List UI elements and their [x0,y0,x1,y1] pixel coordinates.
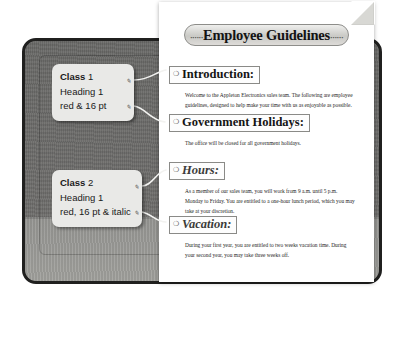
callout-class-2[interactable]: Class 2 Heading 1 red, 16 pt & italic [52,170,142,227]
callout-line-3: red, 16 pt & italic [60,205,134,220]
document-title: Employee Guidelines [203,27,330,44]
document-title-banner: ······ Employee Guidelines ······ [184,24,349,46]
title-ornament-left-icon: ······ [190,33,203,42]
callout-title-rest: 1 [85,71,93,82]
section-hours: ❍ Hours: As a member of our sales team, … [169,160,365,216]
callout-title-bold: Class [60,71,85,82]
section-marker-icon: ❍ [173,70,179,77]
document-page[interactable]: ······ Employee Guidelines ······ ❍ Intr… [159,2,374,282]
section-body-text: During your first year, you are entitled… [185,240,355,260]
callout-line-3: red & 16 pt [60,99,126,114]
section-heading-text: Hours: [182,164,219,177]
section-heading-text: Vacation: [182,218,231,231]
section-marker-icon: ❍ [173,166,179,173]
anchor-glyph-icon: ✎ [126,103,131,110]
section-marker-icon: ❍ [173,220,179,227]
callout-title-line: Class 1 [60,70,126,85]
section-body-text: Welcome to the Appleton Electronics sale… [185,90,355,110]
section-introduction: ❍ Introduction: Welcome to the Appleton … [169,64,365,110]
section-heading-box[interactable]: ❍ Introduction: [169,66,260,84]
section-heading-box[interactable]: ❍ Vacation: [169,216,237,234]
callout-title-rest: 2 [85,177,93,188]
section-body-text: The office will be closed for all govern… [185,138,355,148]
section-government-holidays: ❍ Government Holidays: The office will b… [169,112,365,148]
callout-line-2: Heading 1 [60,191,134,206]
callout-title-line: Class 2 [60,176,134,191]
section-heading-box[interactable]: ❍ Hours: [169,162,225,180]
callout-class-1[interactable]: Class 1 Heading 1 red & 16 pt [52,64,134,121]
screenshot-scene: ······ Employee Guidelines ······ ❍ Intr… [0,0,414,339]
section-marker-icon: ❍ [173,118,179,125]
section-heading-text: Government Holidays: [182,116,304,129]
anchor-glyph-icon: ✎ [134,209,139,216]
anchor-glyph-icon: ✎ [134,183,139,190]
callout-title-bold: Class [60,177,85,188]
callout-line-2: Heading 1 [60,85,126,100]
section-body-text: As a member of our sales team, you will … [185,186,355,216]
section-heading-box[interactable]: ❍ Government Holidays: [169,114,310,132]
section-vacation: ❍ Vacation: During your first year, you … [169,214,365,260]
anchor-glyph-icon: ✎ [126,77,131,84]
title-ornament-right-icon: ······ [330,33,343,42]
section-heading-text: Introduction: [182,68,254,81]
